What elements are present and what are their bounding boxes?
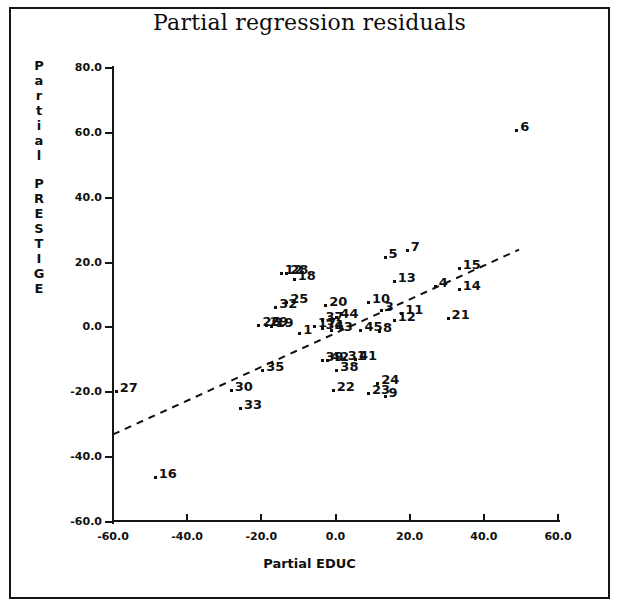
x-axis-title: Partial EDUC	[0, 556, 619, 571]
scatter-point-marker	[458, 288, 461, 291]
scatter-point-label: 22	[337, 380, 355, 393]
x-axis-tick	[260, 514, 262, 522]
y-axis-tick-label: 0.0	[44, 320, 102, 334]
y-axis-tick-label: -60.0	[44, 515, 102, 529]
scatter-point-label: 8	[383, 321, 392, 334]
scatter-point-marker	[406, 249, 409, 252]
x-axis-tick-label-text: -20.0	[231, 530, 291, 543]
scatter-point-label: 41	[359, 349, 377, 362]
y-axis-tick	[105, 262, 113, 264]
y-axis-tick	[105, 67, 113, 69]
y-axis-tick-label-text: -20.0	[70, 385, 102, 398]
scatter-point-label: 5	[389, 247, 398, 260]
y-axis-tick	[105, 197, 113, 199]
scatter-point-label: 27	[120, 381, 138, 394]
x-axis-tick-label-text: 20.0	[380, 530, 440, 543]
y-axis-tick-label: -20.0	[44, 385, 102, 399]
scatter-point-marker	[326, 359, 329, 362]
y-axis-label-char: E	[28, 281, 50, 296]
scatter-point-marker	[384, 256, 387, 259]
scatter-point-label: 9	[389, 386, 398, 399]
y-axis-label-char: S	[28, 221, 50, 236]
scatter-point-marker	[393, 319, 396, 322]
scatter-point-marker	[313, 325, 316, 328]
y-axis-tick	[105, 132, 113, 134]
scatter-point-marker	[154, 476, 157, 479]
y-axis-label-gap	[28, 163, 50, 176]
scatter-point-marker	[359, 329, 362, 332]
scatter-point-label: 19	[275, 316, 293, 329]
y-axis-tick	[105, 326, 113, 328]
y-axis-label-char: a	[28, 73, 50, 88]
scatter-point-label: 43	[335, 320, 353, 333]
y-axis-label-char: T	[28, 236, 50, 251]
scatter-point-marker	[434, 285, 437, 288]
scatter-point-label: 33	[244, 398, 262, 411]
y-axis-tick	[105, 391, 113, 393]
scatter-point-label: 7	[411, 240, 420, 253]
y-axis-tick-label-text: 60.0	[75, 126, 102, 139]
scatter-point-marker	[270, 325, 273, 328]
scatter-point-label: 32	[279, 297, 297, 310]
scatter-point-marker	[293, 278, 296, 281]
scatter-point-marker	[376, 382, 379, 385]
scatter-point-label: 21	[452, 308, 470, 321]
y-axis-tick-label-text: 0.0	[83, 320, 103, 333]
scatter-point-label: 38	[340, 360, 358, 373]
scatter-point-marker	[265, 324, 268, 327]
y-axis-tick-label-text: 40.0	[75, 191, 102, 204]
scatter-point-marker	[447, 317, 450, 320]
scatter-point-marker	[330, 329, 333, 332]
scatter-point-label: 4	[439, 276, 448, 289]
x-axis-tick-label: -40.0	[157, 530, 217, 544]
scatter-point-label: 13	[398, 271, 416, 284]
y-axis-tick-label: 80.0	[44, 61, 102, 75]
y-axis-label-char: E	[28, 206, 50, 221]
scatter-point-label: 12	[398, 310, 416, 323]
figure-frame	[9, 7, 610, 599]
scatter-point-label: 6	[520, 120, 529, 133]
scatter-point-label: 1	[303, 323, 312, 336]
y-axis-tick-label: -40.0	[44, 450, 102, 464]
x-axis-tick	[112, 514, 114, 522]
x-axis-tick-label-text: 40.0	[454, 530, 514, 543]
scatter-point-marker	[515, 129, 518, 132]
y-axis-tick-label-text: 80.0	[75, 61, 102, 74]
scatter-point-label: 30	[235, 380, 253, 393]
x-axis-tick-label-text: 60.0	[528, 530, 588, 543]
y-axis-tick-label: 60.0	[44, 126, 102, 140]
scatter-point-marker	[332, 389, 335, 392]
y-axis-tick-label-text: -40.0	[70, 450, 102, 463]
scatter-point-marker	[380, 309, 383, 312]
scatter-point-marker	[458, 267, 461, 270]
scatter-point-marker	[378, 330, 381, 333]
scatter-point-label: 14	[463, 279, 481, 292]
scatter-point-label: 16	[159, 467, 177, 480]
x-axis-tick	[186, 514, 188, 522]
x-axis-tick-label-text: -40.0	[157, 530, 217, 543]
scatter-point-marker	[261, 369, 264, 372]
scatter-point-marker	[335, 369, 338, 372]
scatter-point-marker	[230, 389, 233, 392]
x-axis-tick-label: 40.0	[454, 530, 514, 544]
y-axis-tick-label-text: -60.0	[70, 515, 102, 528]
scatter-point-marker	[239, 407, 242, 410]
x-axis-tick	[483, 514, 485, 522]
x-axis-tick	[409, 514, 411, 522]
scatter-point-marker	[257, 324, 260, 327]
y-axis-tick-label: 40.0	[44, 191, 102, 205]
scatter-point-marker	[384, 395, 387, 398]
scatter-point-marker	[321, 359, 324, 362]
scatter-point-marker	[324, 304, 327, 307]
y-axis-tick-label-text: 20.0	[75, 256, 102, 269]
scatter-point-marker	[274, 306, 277, 309]
x-axis-tick	[557, 514, 559, 522]
chart-screenshot: Partial regression residuals PartialPRES…	[0, 0, 619, 614]
scatter-point-marker	[285, 272, 288, 275]
x-axis-tick-label: 0.0	[306, 530, 366, 544]
x-axis-tick-label: 60.0	[528, 530, 588, 544]
y-axis-label-char: l	[28, 148, 50, 163]
y-axis-tick	[105, 456, 113, 458]
scatter-point-marker	[298, 332, 301, 335]
scatter-point-label: 15	[463, 258, 481, 271]
